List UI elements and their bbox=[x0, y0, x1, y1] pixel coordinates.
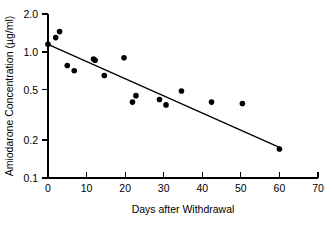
data-point-marker bbox=[163, 102, 169, 108]
x-tick-label: 40 bbox=[196, 182, 208, 194]
regression-line bbox=[48, 44, 279, 147]
axes bbox=[48, 14, 318, 178]
x-tick-label: 70 bbox=[312, 182, 324, 194]
data-point-marker bbox=[277, 146, 283, 152]
x-tick-label: 60 bbox=[274, 182, 286, 194]
y-tick-label: 0.1 bbox=[23, 172, 38, 184]
chart-container: 0.10.20.51.02.0 010203040506070 Days aft… bbox=[0, 0, 332, 226]
data-point-marker bbox=[240, 101, 246, 107]
x-tick-label: 50 bbox=[235, 182, 247, 194]
x-tick-label: 10 bbox=[81, 182, 93, 194]
data-point-marker bbox=[71, 68, 77, 74]
data-point-marker bbox=[53, 35, 59, 41]
x-tick-label: 30 bbox=[158, 182, 170, 194]
y-tick-label: 2.0 bbox=[23, 8, 38, 20]
y-tick-label: 0.5 bbox=[23, 84, 38, 96]
data-point-marker bbox=[92, 57, 98, 63]
y-axis-ticks bbox=[42, 14, 48, 178]
x-tick-label: 0 bbox=[45, 182, 51, 194]
data-point-marker bbox=[102, 73, 108, 79]
y-axis-title: Amiodarone Concentration (µg/ml) bbox=[3, 16, 15, 177]
amiodarone-decay-scatter-plot: 0.10.20.51.02.0 010203040506070 Days aft… bbox=[0, 0, 332, 226]
y-axis-tick-labels: 0.10.20.51.02.0 bbox=[23, 8, 38, 184]
data-point-marker bbox=[130, 99, 136, 105]
y-tick-label: 1.0 bbox=[23, 46, 38, 58]
data-point-marker bbox=[121, 55, 127, 61]
x-axis-tick-labels: 010203040506070 bbox=[45, 182, 324, 194]
data-point-marker bbox=[45, 41, 51, 47]
y-tick-label: 0.2 bbox=[23, 134, 38, 146]
data-point-marker bbox=[157, 97, 163, 103]
data-point-marker bbox=[209, 99, 215, 105]
data-point-marker bbox=[57, 29, 63, 35]
x-tick-label: 20 bbox=[119, 182, 131, 194]
data-point-marker bbox=[64, 63, 70, 69]
data-point-marker bbox=[133, 93, 139, 99]
regression-trend-line bbox=[48, 44, 279, 147]
x-axis-ticks bbox=[48, 172, 318, 178]
data-point-marker bbox=[179, 88, 185, 94]
x-axis-title: Days after Withdrawal bbox=[132, 203, 235, 215]
